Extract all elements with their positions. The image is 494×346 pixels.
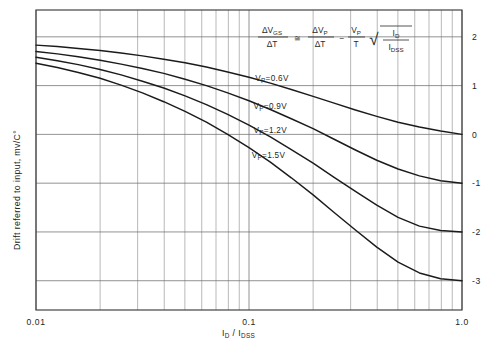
curve-label-0: VP=0.6V — [255, 74, 289, 84]
y-tick-label-1: 1 — [472, 81, 477, 91]
eq-num1-sub: GS — [273, 29, 282, 36]
eq-num3-sub: P — [357, 29, 361, 36]
eq-den2: ΔT — [315, 39, 326, 49]
svg-text:IDSS: IDSS — [388, 42, 403, 53]
equation-annotation: ΔVGS ΔT ≅ ΔVP ΔT − VP T √ — [258, 25, 412, 53]
eq-den1: ΔT — [267, 39, 278, 49]
x-axis-title-sub-dss: DSS — [241, 332, 255, 339]
curve-label-2: VP=1.2V — [254, 126, 288, 136]
chart-plot-svg: VP=0.6VVP=0.9VVP=1.2VVP=1.5V 0.010.11.0 … — [0, 0, 494, 346]
x-tick-label-group: 0.010.11.0 — [26, 317, 468, 327]
eq-num2-sub: P — [324, 29, 328, 36]
svg-text:ID: ID — [393, 28, 400, 39]
curve-label-3: VP=1.5V — [252, 151, 286, 161]
svg-text:ΔVGS: ΔVGS — [262, 25, 282, 36]
y-tick-label-0: 2 — [472, 32, 477, 42]
y-tick-label-5: -3 — [472, 276, 481, 286]
y-tick-label-4: -2 — [472, 227, 481, 237]
svg-text:ΔVP: ΔVP — [312, 25, 327, 36]
x-minor-gridlines — [100, 10, 452, 310]
eq-num4-sub: D — [395, 32, 400, 39]
eq-relation: ≅ — [294, 33, 301, 43]
x-tick-label-1: 0.1 — [242, 317, 256, 327]
eq-den4-sub: DSS — [391, 46, 404, 53]
chart-figure: VP=0.6VVP=0.9VVP=1.2VVP=1.5V 0.010.11.0 … — [0, 0, 494, 346]
y-tick-label-3: -1 — [472, 178, 481, 188]
svg-text:ID / IDSS: ID / IDSS — [222, 328, 255, 339]
y-tick-label-group: 210-1-2-3 — [472, 32, 481, 286]
eq-num1: ΔV — [262, 25, 274, 35]
y-tick-label-2: 0 — [472, 130, 477, 140]
eq-den3: T — [353, 39, 358, 49]
x-tick-label-0: 0.01 — [26, 317, 45, 327]
x-axis-title: ID / IDSS — [222, 328, 255, 339]
x-tick-label-2: 1.0 — [455, 317, 469, 327]
y-axis-title: Drift referred to input, mv/C° — [12, 130, 22, 250]
eq-num2: ΔV — [312, 25, 324, 35]
svg-text:VP: VP — [351, 25, 361, 36]
y-axis-title-text: Drift referred to input, mv/C° — [12, 130, 22, 250]
curve-label-1: VP=0.9V — [254, 102, 288, 112]
x-axis-title-slash: / I — [230, 328, 241, 338]
eq-radical-glyph: √ — [369, 30, 379, 49]
eq-minus: − — [340, 33, 345, 43]
